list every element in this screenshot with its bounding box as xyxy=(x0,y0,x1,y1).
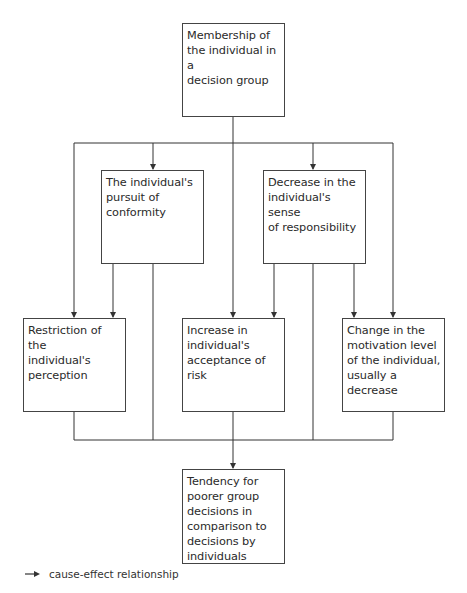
arrow-right-icon xyxy=(25,570,40,578)
cause-effect-diagram: Membership of the individual in a decisi… xyxy=(0,0,467,593)
node-label: Membership of the individual in a decisi… xyxy=(187,28,281,88)
node-label: The individual's pursuit of conformity xyxy=(106,175,200,220)
node-perception: Restriction of the individual's percepti… xyxy=(23,318,126,412)
node-responsibility: Decrease in the individual's sense of re… xyxy=(263,170,366,264)
node-risk: Increase in individual's acceptance of r… xyxy=(182,318,285,412)
node-conformity: The individual's pursuit of conformity xyxy=(101,170,204,264)
legend: cause-effect relationship xyxy=(25,566,179,582)
node-label: Tendency for poorer group decisions in c… xyxy=(187,474,281,564)
node-label: Increase in individual's acceptance of r… xyxy=(187,323,281,383)
node-label: Change in the motivation level of the in… xyxy=(347,323,441,398)
node-label: Restriction of the individual's percepti… xyxy=(28,323,122,383)
node-label: Decrease in the individual's sense of re… xyxy=(268,175,362,235)
node-motivation: Change in the motivation level of the in… xyxy=(342,318,445,412)
legend-label: cause-effect relationship xyxy=(49,568,179,580)
node-membership: Membership of the individual in a decisi… xyxy=(182,23,285,117)
node-outcome: Tendency for poorer group decisions in c… xyxy=(182,469,285,564)
